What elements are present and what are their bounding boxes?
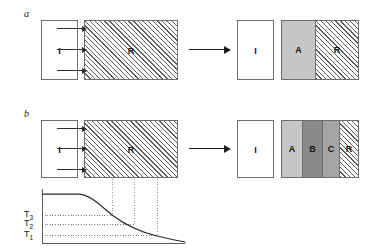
- concentration-profile-curve: [0, 0, 373, 251]
- figure-root: a I R I A R b I R: [0, 0, 373, 251]
- chart-ytick-T1: T1: [24, 230, 33, 241]
- temperature-profile-chart: T3 T2 T1: [0, 0, 373, 251]
